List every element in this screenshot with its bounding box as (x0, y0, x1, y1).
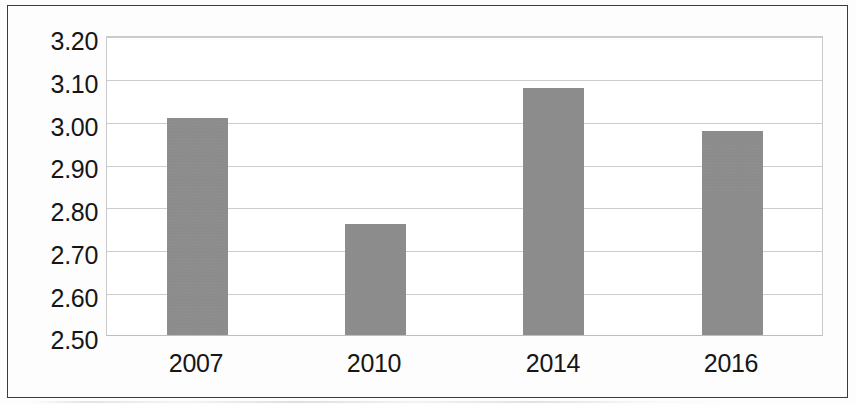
scan-artifact (30, 401, 730, 403)
x-axis-tick-label-2007: 2007 (169, 351, 223, 376)
x-axis-tick-labels: 2007 2010 2014 2016 (8, 6, 849, 399)
x-axis-tick-label-2014: 2014 (526, 351, 580, 376)
chart-frame: 3.20 3.10 3.00 2.90 2.80 2.70 2.60 2.50 (7, 5, 848, 398)
x-axis-tick-label-2010: 2010 (347, 351, 401, 376)
chart-screenshot: 3.20 3.10 3.00 2.90 2.80 2.70 2.60 2.50 (0, 0, 856, 405)
x-axis-tick-label-2016: 2016 (704, 351, 758, 376)
